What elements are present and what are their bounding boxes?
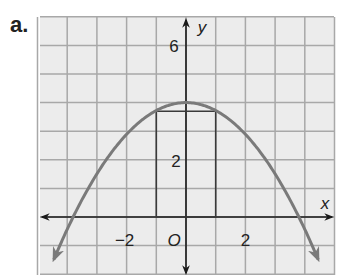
x-axis-label: x [320,194,330,213]
x-tick-label-2: 2 [241,231,250,250]
x-tick-label-neg2: −2 [115,231,134,250]
y-axis-label: y [197,18,208,37]
grid-background [40,17,334,275]
graph: −2226Oxy [0,0,344,276]
y-tick-label-6: 6 [169,37,178,56]
origin-label: O [167,231,180,250]
y-tick-label-2: 2 [171,152,180,171]
